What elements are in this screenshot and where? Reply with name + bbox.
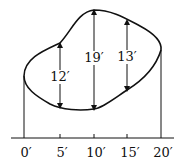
measure-label-15: 13′: [117, 49, 137, 64]
region-diagram: 12′ 19′ 13′ 0′ 5′ 10′ 15′ 20′: [0, 0, 183, 165]
tick-label-20: 20′: [153, 145, 173, 160]
diagram: 12′ 19′ 13′ 0′ 5′ 10′ 15′ 20′: [0, 0, 183, 165]
tick-label-0: 0′: [20, 145, 31, 160]
tick-label-15: 15′: [120, 145, 140, 160]
tick-label-10: 10′: [86, 145, 106, 160]
measure-label-5: 12′: [50, 69, 70, 84]
measure-label-10: 19′: [84, 50, 104, 65]
tick-label-5: 5′: [56, 145, 67, 160]
